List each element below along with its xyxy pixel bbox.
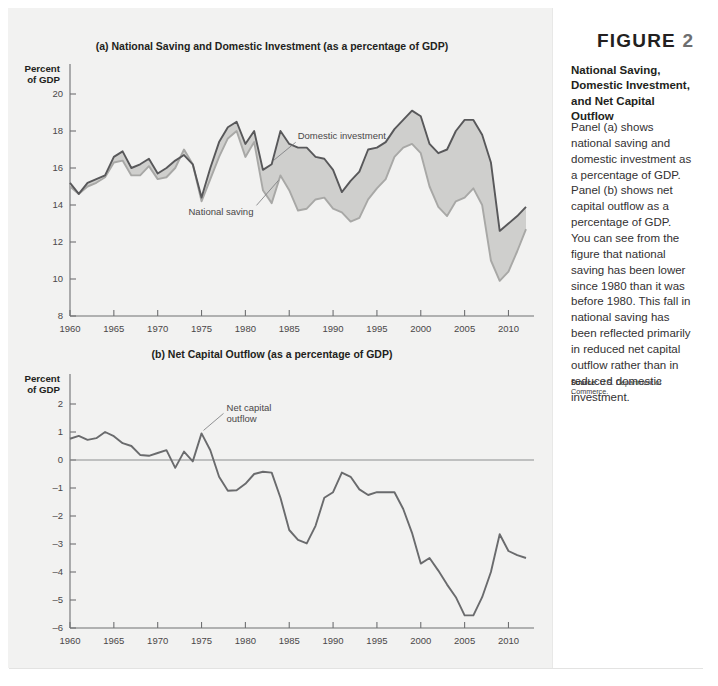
y-tick-label: –6 [52,622,63,633]
y-tick-label: 8 [58,310,63,321]
chart-panel-a: Percentof GDP810121416182019601965197019… [8,54,548,344]
y-tick-label: 0 [58,454,63,465]
x-tick-label: 1960 [59,635,80,646]
chart-panel-b: Percentof GDP–6–5–4–3–2–1012196019651970… [8,362,548,672]
x-tick-label: 1980 [235,635,256,646]
figure-label: FIGURE [597,30,676,51]
y-tick-label: –1 [52,482,63,493]
x-tick-label: 2005 [454,323,475,334]
x-tick-label: 1995 [366,323,387,334]
x-tick-label: 1985 [279,635,300,646]
y-axis-title-line1: Percent [24,373,60,384]
figure-sidebar: FIGURE 2 National Saving, Domestic Inves… [552,8,703,668]
y-tick-label: 2 [58,398,63,409]
x-tick-label: 1965 [103,323,124,334]
x-tick-label: 2005 [454,635,475,646]
x-tick-label: 1995 [366,635,387,646]
y-axis-title-line1: Percent [24,63,60,74]
domestic-investment-label: Domestic investment [298,130,387,141]
y-tick-label: 10 [52,273,63,284]
x-tick-label: 1985 [279,323,300,334]
y-tick-label: 16 [52,162,63,173]
y-tick-label: –5 [52,594,63,605]
x-tick-label: 1960 [59,323,80,334]
x-tick-label: 2000 [410,635,431,646]
x-tick-label: 1965 [103,635,124,646]
y-tick-label: –2 [52,510,63,521]
figure-title: National Saving, Domestic Investment, an… [571,63,691,124]
figure-description: Panel (a) shows national saving and dome… [571,120,693,405]
x-tick-label: 1970 [147,635,168,646]
x-tick-label: 1970 [147,323,168,334]
y-axis-title-line2: of GDP [27,74,60,85]
x-tick-label: 1990 [323,635,344,646]
national-saving-label: National saving [188,206,253,217]
net-capital-outflow-label-line1: Net capital [227,402,272,413]
figure-number: 2 [682,30,693,51]
net-capital-outflow-leader [204,413,224,430]
source-label: Source: [571,378,598,387]
figure-source: Source: U.S. Department of Commerce. [571,378,697,397]
x-tick-label: 2010 [498,323,519,334]
y-tick-label: –4 [52,566,63,577]
y-tick-label: 12 [52,236,63,247]
y-axis-title-line2: of GDP [27,384,60,395]
figure-page: (a) National Saving and Domestic Investm… [8,8,702,668]
net-capital-outflow-label-line2: outflow [227,413,257,424]
y-tick-label: 18 [52,125,63,136]
x-tick-label: 1980 [235,323,256,334]
y-tick-label: –3 [52,538,63,549]
x-tick-label: 1990 [323,323,344,334]
panel-b-title: (b) Net Capital Outflow (as a percentage… [12,348,532,360]
figure-header: FIGURE 2 [571,30,693,52]
panel-a-title: (a) National Saving and Domestic Investm… [12,40,532,52]
x-tick-label: 2010 [498,635,519,646]
x-tick-label: 1975 [191,635,212,646]
y-tick-label: 1 [58,426,63,437]
x-tick-label: 1975 [191,323,212,334]
x-tick-label: 2000 [410,323,431,334]
y-tick-label: 14 [52,199,63,210]
y-tick-label: 20 [52,88,63,99]
